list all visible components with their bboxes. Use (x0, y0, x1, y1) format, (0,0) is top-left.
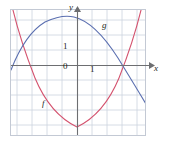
y-axis-label: y (69, 3, 73, 12)
y-axis (74, 6, 81, 135)
x-axis-label: x (154, 64, 158, 73)
graph-figure: y x 1 0 1 g f (0, 0, 169, 148)
curve-g-label: g (102, 21, 107, 30)
graph-canvas (0, 0, 169, 148)
y-unit-tick-label: 1 (63, 42, 68, 51)
curve-f-label: f (42, 99, 45, 108)
x-axis (11, 62, 155, 69)
origin-label: 0 (63, 62, 68, 71)
x-unit-tick-label: 1 (90, 65, 95, 74)
